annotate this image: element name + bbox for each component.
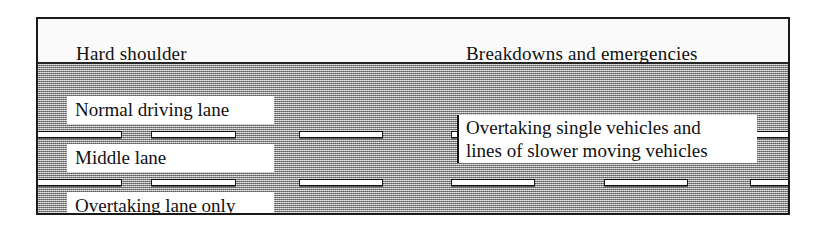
label-overtaking-usage-note: Overtaking single vehicles and lines of … — [457, 115, 757, 163]
lane-divider-dash — [151, 179, 236, 186]
label-middle-lane: Middle lane — [67, 144, 274, 172]
overtaking-note-line-1: Overtaking single vehicles and — [466, 116, 701, 139]
label-breakdowns-and-emergencies: Breakdowns and emergencies — [466, 41, 698, 67]
lane-divider-dash — [299, 179, 383, 186]
lane-divider-dash — [451, 179, 535, 186]
lane-divider-dash — [299, 131, 383, 138]
label-overtaking-lane-only: Overtaking lane only — [67, 192, 274, 215]
label-hard-shoulder: Hard shoulder — [76, 41, 187, 67]
lane-divider-dash — [151, 131, 236, 138]
diagram-scene: Hard shoulder Breakdowns and emergencies… — [0, 0, 823, 229]
lane-divider-dash — [750, 179, 790, 186]
lane-divider-dash — [604, 179, 688, 186]
overtaking-note-line-2: lines of slower moving vehicles — [466, 139, 708, 162]
lane-divider-dash — [36, 179, 122, 186]
label-normal-driving-lane: Normal driving lane — [67, 96, 274, 124]
motorway-lane-diagram: Hard shoulder Breakdowns and emergencies… — [36, 17, 790, 215]
lane-divider-dash — [36, 131, 122, 138]
